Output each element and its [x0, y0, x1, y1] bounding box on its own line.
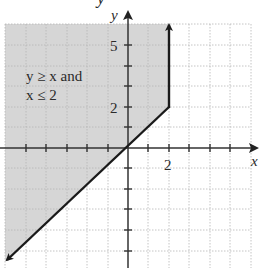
annotation-line-1: y ≥ x and	[26, 68, 83, 84]
y-tick-label-2: 2	[110, 100, 118, 116]
graph: y y x 5 2 2 y ≥ x and x ≤ 2	[0, 0, 260, 268]
x-tick-label-2: 2	[164, 157, 172, 173]
caption-fragment: y	[95, 0, 105, 8]
y-tick-label-5: 5	[110, 38, 118, 54]
x-axis-label: x	[250, 153, 258, 169]
annotation-line-2: x ≤ 2	[26, 87, 57, 103]
y-axis-label: y	[109, 7, 118, 23]
